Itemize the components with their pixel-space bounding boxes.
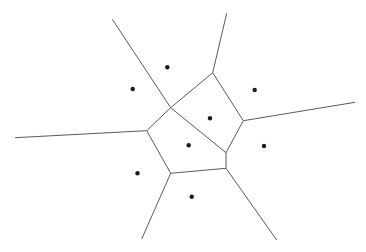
voronoi-edge <box>147 131 171 174</box>
voronoi-edge <box>226 121 243 153</box>
voronoi-site <box>135 171 139 175</box>
voronoi-edge <box>243 102 355 120</box>
voronoi-diagram <box>0 0 366 252</box>
voronoi-edge <box>112 19 170 107</box>
voronoi-site <box>165 65 169 69</box>
voronoi-edges <box>15 13 355 240</box>
voronoi-site <box>253 88 257 92</box>
voronoi-edge <box>226 168 277 240</box>
voronoi-edge <box>15 131 147 138</box>
voronoi-edge <box>213 13 227 72</box>
voronoi-site <box>187 143 191 147</box>
voronoi-site <box>262 144 266 148</box>
voronoi-edge <box>142 173 171 239</box>
voronoi-site <box>131 87 135 91</box>
voronoi-edge <box>171 108 226 153</box>
voronoi-site <box>190 195 194 199</box>
voronoi-site <box>208 116 212 120</box>
voronoi-edge <box>171 73 213 108</box>
voronoi-edge <box>147 108 171 131</box>
voronoi-edge <box>213 73 244 121</box>
voronoi-edge <box>171 168 226 173</box>
